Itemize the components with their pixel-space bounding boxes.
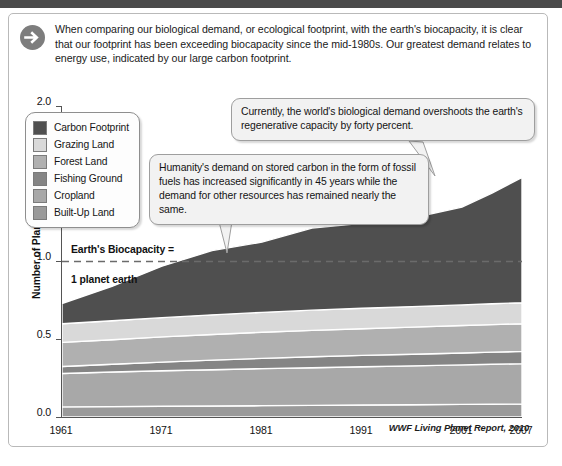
biocapacity-annotation-line2: 1 planet earth <box>71 274 137 285</box>
x-tick-label-2: 1981 <box>241 424 281 436</box>
legend-label-built-up-land: Built-Up Land <box>54 207 114 218</box>
arrow-right-circle-icon <box>19 24 46 51</box>
legend-item-grazing-land[interactable]: Grazing Land <box>33 136 129 153</box>
x-tick-label-1: 1971 <box>141 424 181 436</box>
figure-frame: When comparing our biological demand, or… <box>8 13 548 447</box>
legend-item-built-up-land[interactable]: Built-Up Land <box>33 204 129 221</box>
legend-swatch-forest-land <box>33 155 47 169</box>
chart-legend[interactable]: Carbon Footprint Grazing Land Forest Lan… <box>25 112 140 228</box>
y-tick-label-4: 2.0 <box>17 95 51 107</box>
legend-label-fishing-ground: Fishing Ground <box>54 173 122 184</box>
legend-swatch-carbon-footprint <box>33 121 47 135</box>
legend-label-forest-land: Forest Land <box>54 156 107 167</box>
chart-container: Number of Planet Earths 0.0 0.5 1.0 1.5 … <box>9 84 547 446</box>
callout-overshoot: Currently, the world's biological demand… <box>231 98 535 141</box>
source-citation: WWF Living Planet Report, 2010 <box>389 422 529 433</box>
y-tick-label-2: 1.0 <box>17 250 51 262</box>
legend-swatch-cropland <box>33 189 47 203</box>
y-tick-label-0: 0.0 <box>17 406 51 418</box>
callout-carbon-demand: Humanity's demand on stored carbon in th… <box>149 154 429 225</box>
legend-item-fishing-ground[interactable]: Fishing Ground <box>33 170 129 187</box>
y-tick-label-1: 0.5 <box>17 328 51 340</box>
x-tick-label-0: 1961 <box>41 424 81 436</box>
intro-text: When comparing our biological demand, or… <box>55 22 539 66</box>
legend-swatch-grazing-land <box>33 138 47 152</box>
legend-item-forest-land[interactable]: Forest Land <box>33 153 129 170</box>
legend-swatch-built-up-land <box>33 206 47 220</box>
top-decorative-band <box>0 0 562 8</box>
legend-swatch-fishing-ground <box>33 172 47 186</box>
intro-block: When comparing our biological demand, or… <box>19 22 539 66</box>
legend-label-grazing-land: Grazing Land <box>54 139 114 150</box>
legend-item-cropland[interactable]: Cropland <box>33 187 129 204</box>
legend-label-cropland: Cropland <box>54 190 95 201</box>
legend-label-carbon-footprint: Carbon Footprint <box>54 122 129 133</box>
x-tick-label-3: 1991 <box>341 424 381 436</box>
legend-item-carbon-footprint[interactable]: Carbon Footprint <box>33 119 129 136</box>
biocapacity-annotation-line1: Earth's Biocapacity = <box>71 244 174 255</box>
page-root: When comparing our biological demand, or… <box>0 0 562 466</box>
